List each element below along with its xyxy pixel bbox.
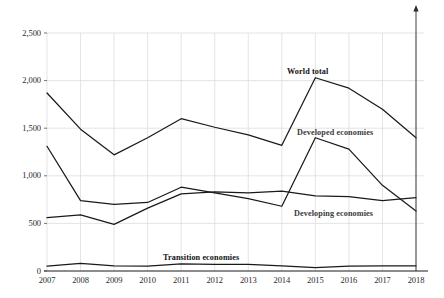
series-label-world-total: World total (287, 67, 328, 76)
x-tick-2011: 2011 (164, 275, 198, 285)
series-line-developed-economies (47, 138, 416, 211)
y-tick-2000: 2,000 (0, 75, 41, 85)
axis-lines (44, 33, 428, 271)
x-tick-2013: 2013 (231, 275, 265, 285)
y-tick-500: 500 (0, 218, 41, 228)
x-tick-2012: 2012 (198, 275, 232, 285)
y-tick-2500: 2,500 (0, 28, 41, 38)
x-tick-2015: 2015 (298, 275, 332, 285)
gridlines (47, 33, 424, 271)
fdi-inflows-line-chart: 05001,0001,5002,0002,500 200720082009201… (0, 0, 444, 298)
x-tick-2010: 2010 (131, 275, 165, 285)
x-tick-2017: 2017 (365, 275, 399, 285)
series-lines (47, 78, 416, 268)
x-tick-2018: 2018 (399, 275, 433, 285)
y-tick-1000: 1,000 (0, 170, 41, 180)
x-tick-2016: 2016 (332, 275, 366, 285)
y-tick-1500: 1,500 (0, 123, 41, 133)
x-tick-2009: 2009 (97, 275, 131, 285)
series-line-world-total (47, 78, 416, 155)
x-tick-2007: 2007 (30, 275, 64, 285)
series-label-developed-economies: Developed economies (297, 128, 373, 137)
series-line-transition-economies (47, 263, 416, 267)
y-tick-0: 0 (0, 266, 41, 276)
series-label-transition-economies: Transition economies (163, 253, 239, 262)
series-label-developing-economies: Developing economies (294, 209, 373, 218)
x-tick-2014: 2014 (265, 275, 299, 285)
right-arrow-marker (413, 5, 418, 271)
x-tick-2008: 2008 (64, 275, 98, 285)
